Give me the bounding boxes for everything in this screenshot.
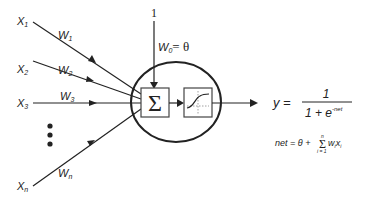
arrow-icon	[86, 76, 94, 82]
arrow-icon	[177, 99, 184, 107]
input-label-n: Xn	[16, 180, 28, 193]
output-lhs: y =	[272, 95, 291, 110]
bias-input-label: 1	[151, 6, 157, 20]
ellipsis-dots	[47, 123, 52, 146]
input-label-2: X2	[16, 63, 28, 76]
net-sum-term: wixi	[328, 138, 342, 149]
input-label-1: X1	[16, 15, 28, 28]
weight-label-n: Wn	[58, 167, 72, 180]
input-connections	[33, 22, 141, 186]
weight-label-1: W1	[58, 29, 72, 42]
weight-label-3: W3	[60, 90, 74, 103]
weight-label-2: W2	[58, 64, 72, 77]
input-line-1	[33, 22, 141, 94]
net-sum-upper: n	[321, 133, 324, 139]
sigma-icon: Σ	[148, 90, 162, 116]
input-line-n	[33, 109, 141, 186]
arrow-icon	[89, 100, 97, 106]
output-arrow-icon	[250, 99, 258, 107]
input-label-3: X3	[16, 97, 28, 110]
perceptron-diagram: X1 X2 X3 Xn W1 W2 W3 Wn 1 W0= θ Σ y = 1 …	[0, 0, 369, 199]
output-denominator: 1 + e-net	[305, 106, 343, 120]
bias-weight-label: W0= θ	[158, 39, 189, 54]
net-formula-lhs: net = θ +	[275, 138, 310, 148]
output-numerator: 1	[323, 87, 330, 101]
net-sum-lower: i = 1	[317, 148, 327, 154]
arrowheads	[86, 55, 97, 146]
